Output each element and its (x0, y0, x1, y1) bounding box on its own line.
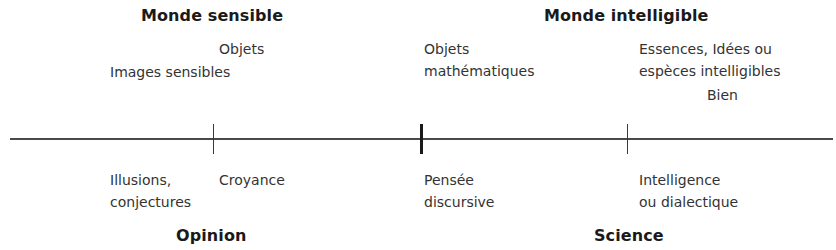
label-pensee-line2: discursive (424, 191, 494, 213)
label-intelligence-line1: Intelligence (639, 169, 738, 191)
heading-opinion: Opinion (176, 226, 247, 245)
label-images-sensibles: Images sensibles (110, 61, 230, 83)
axis-tick-intelligible-divider (627, 124, 628, 154)
label-essences-line2: espèces intelligibles (639, 60, 780, 82)
axis-tick-main-divider (420, 124, 423, 154)
label-intelligence-dialectique: Intelligence ou dialectique (639, 169, 738, 213)
label-objets-mathematiques: Objets mathématiques (424, 38, 534, 82)
label-croyance: Croyance (219, 169, 285, 191)
label-pensee-discursive: Pensée discursive (424, 169, 494, 213)
label-objets-math-line1: Objets (424, 38, 534, 60)
heading-monde-intelligible: Monde intelligible (544, 6, 709, 25)
label-essences-idees: Essences, Idées ou espèces intelligibles (639, 38, 780, 82)
label-intelligence-line2: ou dialectique (639, 191, 738, 213)
label-illusions-line2: conjectures (110, 191, 191, 213)
heading-science: Science (594, 226, 664, 245)
label-objets: Objets (219, 38, 264, 60)
label-illusions-line1: Illusions, (110, 169, 191, 191)
heading-monde-sensible: Monde sensible (141, 6, 283, 25)
label-pensee-line1: Pensée (424, 169, 494, 191)
label-essences-line1: Essences, Idées ou (639, 38, 780, 60)
label-illusions-conjectures: Illusions, conjectures (110, 169, 191, 213)
label-objets-math-line2: mathématiques (424, 60, 534, 82)
label-bien: Bien (707, 84, 738, 106)
axis-tick-sensible-divider (213, 124, 214, 154)
